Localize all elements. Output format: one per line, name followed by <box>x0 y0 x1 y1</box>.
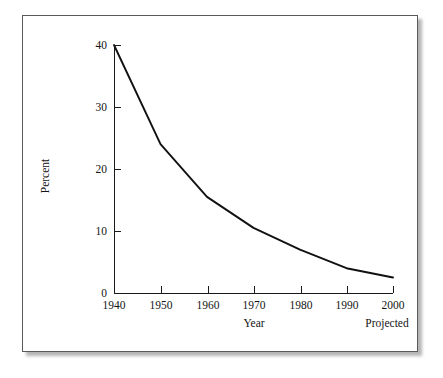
line-chart: 40 30 20 10 0 Percent 1940 1950 1960 197… <box>23 16 419 353</box>
x-tick-label-1990: 1990 <box>336 299 359 311</box>
x-tick-label-1970: 1970 <box>243 299 266 311</box>
x-tick-label-1950: 1950 <box>150 299 173 311</box>
y-axis-tick-labels: 40 30 20 10 0 <box>96 39 108 299</box>
y-tick-label-40: 40 <box>96 39 108 51</box>
y-tick-label-0: 0 <box>101 287 107 299</box>
x-tick-label-1940: 1940 <box>103 299 126 311</box>
x-tick-label-1980: 1980 <box>290 299 313 311</box>
x-axis-tick-labels: 1940 1950 1960 1970 1980 1990 2000 <box>103 299 405 311</box>
y-tick-label-10: 10 <box>96 225 108 237</box>
x-tick-label-2000: 2000 <box>382 299 405 311</box>
y-tick-label-30: 30 <box>96 101 108 113</box>
x-axis-title: Year <box>243 317 264 329</box>
x-tick-label-1960: 1960 <box>197 299 220 311</box>
figure-card: 40 30 20 10 0 Percent 1940 1950 1960 197… <box>22 15 418 352</box>
projected-annotation: Projected <box>365 317 409 330</box>
data-series-line <box>114 45 393 278</box>
y-axis-title: Percent <box>39 158 51 193</box>
y-tick-label-20: 20 <box>96 163 108 175</box>
y-axis-ticks <box>114 45 121 231</box>
x-axis-ticks <box>114 286 393 293</box>
